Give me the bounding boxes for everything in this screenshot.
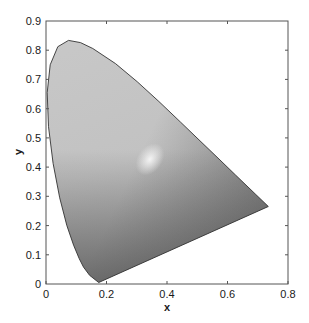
x-tick-label: 0.6 [220, 288, 235, 300]
y-axis-label: y [12, 148, 24, 155]
y-tick-label: 0.4 [26, 161, 41, 173]
y-tick-label: 0.9 [26, 15, 41, 27]
y-tick-label: 0.5 [26, 132, 41, 144]
y-tick-label: 0.1 [26, 249, 41, 261]
x-tick-label: 0 [43, 288, 49, 300]
x-tick-label: 0.4 [159, 288, 174, 300]
y-tick-label: 0.2 [26, 220, 41, 232]
y-tick-label: 0.6 [26, 103, 41, 115]
x-tick-label: 0.2 [99, 288, 114, 300]
y-tick-label: 0.3 [26, 190, 41, 202]
y-tick-label: 0 [35, 278, 41, 290]
chromaticity-chart: 0 0.2 0.4 0.6 0.8 0 0.1 0.2 0.3 0.4 0.5 … [0, 0, 309, 323]
y-tick-label: 0.7 [26, 73, 41, 85]
x-tick-label: 0.8 [280, 288, 295, 300]
x-axis-label: x [164, 301, 171, 313]
y-tick-label: 0.8 [26, 44, 41, 56]
